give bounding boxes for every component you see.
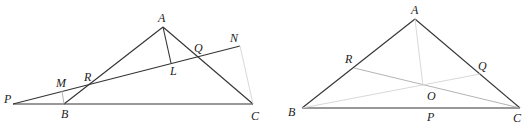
geometry-diagrams: A P B C N Q L R M A B C R Q O P xyxy=(0,0,525,126)
label-B: B xyxy=(61,107,69,121)
cevian-AO xyxy=(415,19,423,86)
label-C: C xyxy=(251,109,260,123)
label-C: C xyxy=(513,111,522,125)
label-O: O xyxy=(427,89,436,103)
label-Q: Q xyxy=(478,59,487,73)
label-N: N xyxy=(229,31,239,45)
side-AB xyxy=(302,19,415,108)
cevian-BQ xyxy=(302,74,480,108)
left-triangle-figure: A P B C N Q L R M xyxy=(3,11,260,123)
label-Q: Q xyxy=(194,41,203,55)
label-R: R xyxy=(83,70,92,84)
side-AB xyxy=(64,27,163,104)
label-A: A xyxy=(410,3,419,17)
right-triangle-figure: A B C R Q O P xyxy=(288,3,522,125)
perpendicular-CN xyxy=(240,46,253,104)
cevian-CR xyxy=(354,68,520,108)
label-P: P xyxy=(426,110,435,124)
label-R: R xyxy=(344,52,353,66)
label-A: A xyxy=(157,11,166,25)
label-M: M xyxy=(55,76,67,90)
label-P: P xyxy=(3,92,12,106)
label-L: L xyxy=(169,64,177,78)
perpendicular-BM xyxy=(62,91,64,104)
label-B: B xyxy=(288,105,296,119)
